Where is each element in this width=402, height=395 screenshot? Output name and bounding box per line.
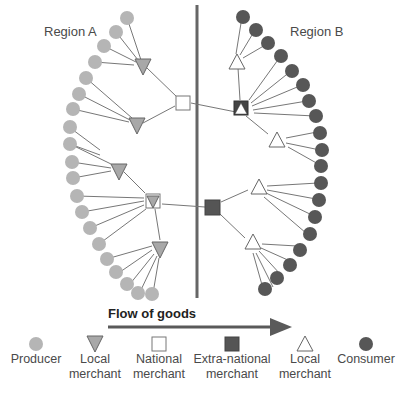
producers <box>63 11 159 301</box>
consumer-node <box>285 64 299 78</box>
consumer-node <box>313 126 327 140</box>
producer-node <box>131 286 145 300</box>
local-merchants-b <box>229 54 285 249</box>
consumer-node <box>315 143 329 157</box>
legend-national-merchant: National merchant <box>126 352 192 382</box>
producer-node <box>92 237 106 251</box>
legend-icons <box>29 336 373 352</box>
producer-node <box>97 39 111 53</box>
consumer-node <box>314 176 328 190</box>
consumer-node <box>270 271 284 285</box>
producer-node <box>66 102 80 116</box>
producer-node <box>109 265 123 279</box>
gray-circle-icon <box>29 337 43 351</box>
local-merchant-a-node <box>135 59 151 75</box>
producer-node <box>145 287 159 301</box>
consumer-node <box>302 94 316 108</box>
consumer-node <box>236 10 250 24</box>
local-merchant-a-node <box>129 118 145 134</box>
gray-down-triangle-icon <box>87 336 103 352</box>
local-merchant-b-node <box>229 54 245 69</box>
national-merchants <box>146 96 190 208</box>
consumer-node <box>249 23 263 37</box>
local-merchant-a-node <box>152 242 168 258</box>
producer-node <box>63 120 77 134</box>
dark-circle-icon <box>359 337 373 351</box>
white-up-triangle-icon <box>297 336 313 351</box>
producer-node <box>66 171 80 185</box>
consumer-node <box>312 193 326 207</box>
producer-node <box>79 71 93 85</box>
consumer-node <box>261 36 275 50</box>
legend-extra-national-merchant: Extra-national merchant <box>192 352 272 382</box>
producer-node <box>109 25 123 39</box>
extra-national-merchants <box>205 101 248 215</box>
white-square-icon <box>152 337 166 351</box>
producer-node <box>70 189 84 203</box>
producer-node <box>120 277 134 291</box>
local-merchant-b-node <box>251 179 267 194</box>
consumer-node <box>308 210 322 224</box>
trade-network-diagram <box>0 0 402 395</box>
consumer-node <box>296 78 310 92</box>
national-merchant-node <box>176 96 190 110</box>
producer-node <box>100 252 114 266</box>
consumer-node <box>314 159 328 173</box>
consumers <box>236 10 329 296</box>
producer-node <box>63 137 77 151</box>
consumer-node <box>293 243 307 257</box>
producer-node <box>120 11 134 25</box>
consumer-node <box>258 282 272 296</box>
producer-node <box>75 205 89 219</box>
legend-local-merchant-a: Local merchant <box>65 352 125 382</box>
consumer-node <box>283 258 297 272</box>
legend-consumer: Consumer <box>321 352 402 367</box>
region-a-label: Region A <box>44 24 97 39</box>
local-merchant-b-node <box>245 234 261 249</box>
consumer-node <box>309 109 323 123</box>
consumer-node <box>274 49 288 63</box>
extra-national-merchant-node <box>205 200 220 215</box>
region-b-label: Region B <box>290 24 343 39</box>
dark-square-icon <box>225 337 239 351</box>
flow-of-goods-label: Flow of goods <box>108 306 196 321</box>
local-merchant-b-node <box>269 132 285 147</box>
producer-node <box>65 155 79 169</box>
consumer-node <box>303 227 317 241</box>
producer-node <box>88 55 102 69</box>
producer-node <box>83 221 97 235</box>
producer-node <box>72 87 86 101</box>
